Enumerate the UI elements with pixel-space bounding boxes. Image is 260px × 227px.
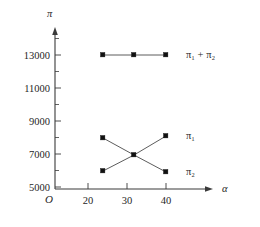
series-one-marker-3 (164, 134, 168, 138)
series-sum-marker-2 (132, 53, 136, 57)
y-tick-label-11000: 11000 (24, 83, 50, 94)
y-axis-ticks (55, 39, 61, 188)
series-label-one-text: π₁ (186, 130, 195, 141)
series-label-two-text: π₂ (186, 166, 195, 177)
x-tick-label-40: 40 (161, 195, 172, 206)
series-label-sum: π₁ + π₂ (186, 49, 215, 60)
x-axis-arrowhead (205, 186, 213, 192)
y-tick-label-5000: 5000 (29, 182, 50, 193)
series-sum (101, 53, 168, 57)
chart-plot-area: 13000 11000 9000 7000 5000 20 30 40 O π … (0, 0, 260, 227)
x-axis-title: α (222, 183, 228, 194)
x-axis-ticks (88, 183, 166, 189)
y-axis-arrowhead (52, 27, 58, 35)
chart-figure: 13000 11000 9000 7000 5000 20 30 40 O π … (0, 0, 260, 227)
series-label-one: π₁ (186, 130, 195, 141)
series-crossing-marker (132, 153, 136, 157)
series-one-marker-1 (101, 169, 105, 173)
x-tick-label-30: 30 (122, 195, 133, 206)
x-axis (55, 186, 213, 192)
origin-label: O (45, 193, 53, 205)
y-tick-label-13000: 13000 (24, 50, 50, 61)
y-tick-label-7000: 7000 (29, 149, 50, 160)
series-label-two: π₂ (186, 166, 195, 177)
x-tick-label-20: 20 (83, 195, 94, 206)
series-one (101, 134, 168, 173)
y-tick-label-9000: 9000 (29, 116, 50, 127)
series-sum-marker-3 (164, 53, 168, 57)
series-two-marker-1 (101, 136, 105, 140)
series-label-sum-text: π₁ + π₂ (186, 49, 215, 60)
series-two-marker-3 (164, 170, 168, 174)
y-axis-title: π (47, 8, 53, 19)
y-axis (52, 27, 58, 189)
series-sum-marker-1 (101, 53, 105, 57)
